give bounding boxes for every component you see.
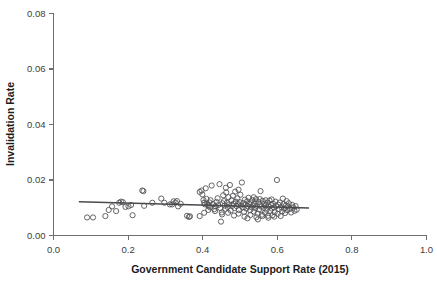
x-tick-label: 0.6 [271,244,284,255]
y-tick-label: 0.02 [27,174,46,185]
y-tick-label: 0.08 [27,8,46,19]
y-tick-label: 0.06 [27,63,46,74]
x-tick-label: 0.0 [47,244,60,255]
plot-canvas: 0.000.020.040.060.08 0.00.20.40.60.81.0 … [0,0,437,285]
figure-background [0,0,437,285]
x-axis-title: Government Candidate Support Rate (2015) [131,263,349,275]
y-axis-title: Invalidation Rate [4,82,16,166]
x-tick-label: 0.8 [345,244,358,255]
y-tick-label: 0.00 [27,230,46,241]
x-tick-label: 0.2 [121,244,134,255]
x-tick-label: 1.0 [420,244,433,255]
y-tick-label: 0.04 [27,119,46,130]
scatter-plot-figure: 0.000.020.040.060.08 0.00.20.40.60.81.0 … [0,0,437,285]
x-tick-label: 0.4 [196,244,209,255]
